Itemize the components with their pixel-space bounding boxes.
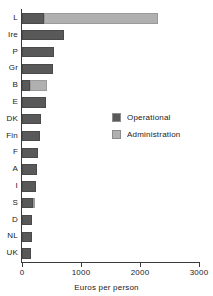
bar-p <box>22 47 54 57</box>
category-label-e: E <box>0 94 18 111</box>
bar-segment-administration-b <box>30 80 47 90</box>
bar-row: E <box>0 94 213 111</box>
x-tick <box>140 263 141 267</box>
bar-row: P <box>0 44 213 61</box>
bar-segment-operational-dk <box>22 114 41 124</box>
bar-row: A <box>0 161 213 178</box>
x-tick-label: 0 <box>20 268 25 277</box>
bar-d <box>22 215 32 225</box>
bar-segment-operational-b <box>22 80 30 90</box>
x-tick-label: 2000 <box>131 268 150 277</box>
bar-segment-operational-f <box>22 148 38 158</box>
bar-row: UK <box>0 245 213 262</box>
bar-uk <box>22 248 31 258</box>
bar-row: F <box>0 144 213 161</box>
bar-row: Ire <box>0 27 213 44</box>
category-label-f: F <box>0 144 18 161</box>
category-label-ire: Ire <box>0 27 18 44</box>
category-label-i: I <box>0 178 18 195</box>
category-label-a: A <box>0 161 18 178</box>
category-label-b: B <box>0 77 18 94</box>
x-tick <box>81 263 82 267</box>
bar-chart: LIrePGrBEDKFinFAISDNLUK 0100020003000 Eu… <box>0 0 213 296</box>
bar-segment-administration-l <box>44 13 158 23</box>
legend-label-administration: Administration <box>127 130 181 139</box>
bar-segment-operational-gr <box>22 64 53 74</box>
bar-a <box>22 164 37 174</box>
legend-swatch-operational <box>112 113 121 122</box>
x-tick-label: 3000 <box>190 268 209 277</box>
x-tick <box>199 263 200 267</box>
category-label-dk: DK <box>0 111 18 128</box>
legend-item-administration: Administration <box>112 127 181 142</box>
legend-swatch-administration <box>112 130 121 139</box>
bar-row: DK <box>0 111 213 128</box>
bar-segment-operational-p <box>22 47 54 57</box>
bar-row: B <box>0 77 213 94</box>
category-label-uk: UK <box>0 245 18 262</box>
bar-nl <box>22 232 32 242</box>
bar-row: NL <box>0 228 213 245</box>
bar-row: L <box>0 10 213 27</box>
chart-legend: Operational Administration <box>112 110 181 144</box>
category-label-d: D <box>0 212 18 229</box>
bar-e <box>22 97 46 107</box>
bar-segment-operational-l <box>22 13 44 23</box>
bar-row: S <box>0 195 213 212</box>
x-tick-label: 1000 <box>72 268 91 277</box>
bar-segment-operational-ire <box>22 30 64 40</box>
bar-gr <box>22 64 53 74</box>
bar-s <box>22 198 35 208</box>
category-label-gr: Gr <box>0 60 18 77</box>
bar-row: Fin <box>0 128 213 145</box>
bar-row: D <box>0 212 213 229</box>
x-axis-line <box>21 262 200 263</box>
bar-segment-operational-e <box>22 97 46 107</box>
category-label-s: S <box>0 195 18 212</box>
bar-i <box>22 181 36 191</box>
category-label-l: L <box>0 10 18 27</box>
bar-row: Gr <box>0 60 213 77</box>
x-axis-title: Euros per person <box>0 283 213 292</box>
bar-f <box>22 148 38 158</box>
category-label-nl: NL <box>0 228 18 245</box>
category-label-fin: Fin <box>0 128 18 145</box>
bar-segment-operational-fin <box>22 131 40 141</box>
bar-b <box>22 80 47 90</box>
bar-row: I <box>0 178 213 195</box>
bar-fin <box>22 131 40 141</box>
category-label-p: P <box>0 44 18 61</box>
bar-segment-operational-uk <box>22 248 31 258</box>
bar-dk <box>22 114 41 124</box>
bar-segment-operational-a <box>22 164 37 174</box>
bar-l <box>22 13 158 23</box>
bar-segment-operational-i <box>22 181 36 191</box>
legend-label-operational: Operational <box>127 113 171 122</box>
bar-segment-operational-nl <box>22 232 32 242</box>
bar-ire <box>22 30 64 40</box>
x-tick <box>22 263 23 267</box>
bar-segment-operational-s <box>22 198 33 208</box>
bar-segment-administration-s <box>33 198 35 208</box>
legend-item-operational: Operational <box>112 110 181 125</box>
bar-segment-operational-d <box>22 215 32 225</box>
